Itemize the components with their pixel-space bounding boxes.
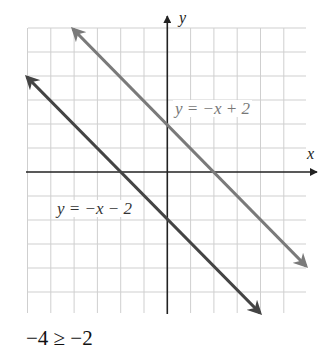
inequality-caption: −4 ≥ −2	[26, 328, 93, 349]
line1-label: y = −x + 2	[173, 100, 252, 117]
coordinate-plane	[0, 0, 329, 325]
line2-label: y = −x − 2	[55, 200, 134, 217]
x-axis-label: x	[307, 146, 314, 162]
axes	[26, 16, 317, 314]
y-axis-label: y	[179, 10, 186, 26]
